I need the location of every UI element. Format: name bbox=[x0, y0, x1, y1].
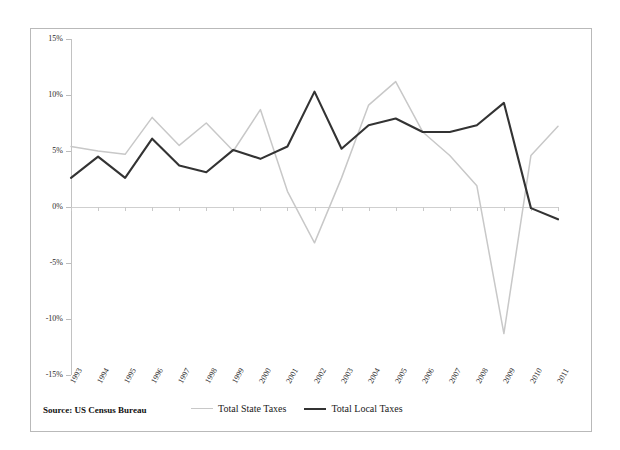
y-axis-label: 0% bbox=[52, 203, 63, 211]
y-axis-label: 10% bbox=[48, 91, 63, 99]
y-axis-label: 5% bbox=[52, 147, 63, 155]
plot-area: 15%10%5%0%-5%-10%-15% 199319941995199619… bbox=[71, 39, 558, 375]
legend-swatch bbox=[304, 408, 326, 410]
legend-swatch bbox=[191, 408, 213, 409]
x-axis-tick bbox=[558, 207, 559, 211]
series-layer bbox=[71, 39, 558, 375]
chart-footer: Source: US Census Bureau Total State Tax… bbox=[31, 401, 591, 423]
series-line bbox=[71, 92, 558, 220]
legend-entry: Total State Taxes bbox=[191, 403, 286, 414]
x-axis-label: 2011 bbox=[556, 367, 571, 385]
chart-legend: Total State TaxesTotal Local Taxes bbox=[191, 403, 403, 414]
source-note: Source: US Census Bureau bbox=[43, 405, 146, 415]
y-axis-label: -10% bbox=[46, 315, 63, 323]
y-axis-label: -5% bbox=[50, 259, 63, 267]
y-axis-label: -15% bbox=[46, 371, 63, 379]
y-axis-label: 15% bbox=[48, 35, 63, 43]
legend-label: Total State Taxes bbox=[218, 403, 286, 414]
legend-entry: Total Local Taxes bbox=[304, 403, 402, 414]
chart-frame: 15%10%5%0%-5%-10%-15% 199319941995199619… bbox=[30, 28, 592, 432]
legend-label: Total Local Taxes bbox=[331, 403, 402, 414]
